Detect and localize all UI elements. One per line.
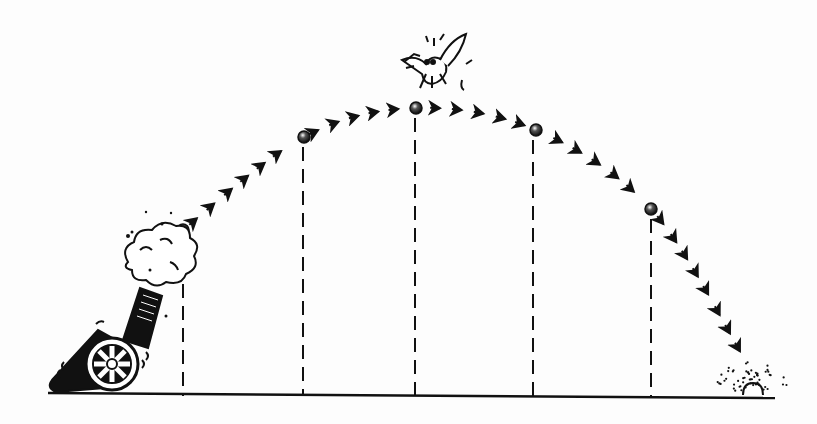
arrow-icon [515, 122, 524, 125]
trajectory-canvas [0, 0, 817, 424]
arrow-icon [189, 218, 196, 224]
cannonball [645, 203, 657, 215]
bird-icon [402, 34, 472, 90]
arrow-icon [240, 176, 248, 182]
cannonball [298, 131, 310, 143]
arrow-icon [693, 268, 698, 276]
drop-lines [183, 118, 651, 396]
arrow-icon [452, 109, 462, 110]
arrow-icon [592, 159, 600, 164]
arrow-icon [257, 163, 265, 169]
arrow-icon [657, 216, 663, 224]
cannonball [530, 124, 542, 136]
cannonball [410, 102, 422, 114]
arrow-icon [725, 325, 730, 334]
arrow-icon [610, 172, 618, 178]
arrow-icon [626, 185, 633, 192]
arrow-icon [671, 234, 677, 242]
trajectory-arrows [189, 108, 740, 351]
impact-splash-icon [717, 361, 788, 395]
ground-line [48, 393, 775, 398]
arrow-icon [715, 306, 720, 315]
arrow-icon [682, 251, 687, 259]
trajectory-illustration [0, 0, 817, 424]
arrow-icon [553, 138, 562, 142]
arrow-icon [309, 130, 318, 134]
arrow-icon [273, 151, 281, 157]
arrow-icon [735, 343, 740, 352]
arrow-icon [573, 148, 581, 153]
arrow-icon [369, 112, 379, 114]
smoke-cloud-icon [125, 223, 197, 286]
arrow-icon [207, 204, 214, 210]
arrow-icon [224, 189, 232, 195]
cannonballs [177, 102, 657, 236]
arrow-icon [349, 116, 358, 119]
arrow-icon [329, 122, 338, 125]
cannon-icon [50, 223, 197, 392]
arrow-icon [703, 286, 708, 294]
arrow-icon [474, 112, 484, 114]
arrow-icon [496, 116, 505, 119]
arrow-icon [389, 109, 399, 110]
